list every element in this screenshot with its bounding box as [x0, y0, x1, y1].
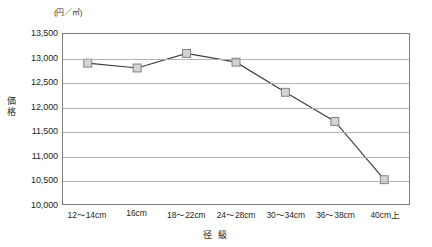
data-point-marker — [281, 88, 289, 96]
gridline — [63, 108, 409, 109]
y-tick-label: 11,500 — [6, 126, 58, 136]
x-axis-title: 径 級 — [0, 228, 432, 241]
x-tick-label: 30〜34cm — [266, 208, 305, 220]
y-axis-tick-labels: 13,50013,00012,50012,00011,50011,00010,5… — [0, 33, 58, 205]
gridline — [63, 181, 409, 182]
x-tick-label: 18〜22cm — [167, 208, 206, 220]
y-tick-label: 13,500 — [6, 28, 58, 38]
series-line — [88, 53, 385, 179]
y-tick-label: 13,000 — [6, 53, 58, 63]
x-tick-label: 16cm — [126, 208, 146, 218]
gridline — [63, 157, 409, 158]
line-chart: (円／㎥) 価格 13,50013,00012,50012,00011,5001… — [0, 0, 432, 247]
y-tick-label: 10,000 — [6, 200, 58, 210]
x-axis-tick-labels: 12〜14cm16cm18〜22cm24〜28cm30〜34cm36〜38cm4… — [62, 208, 410, 222]
y-tick-label: 10,500 — [6, 175, 58, 185]
y-tick-label: 12,500 — [6, 77, 58, 87]
data-point-marker — [380, 176, 388, 184]
gridline — [63, 132, 409, 133]
y-axis-unit-label: (円／㎥) — [54, 6, 82, 17]
x-tick-label: 12〜14cm — [68, 208, 107, 220]
x-tick-label: 24〜28cm — [217, 208, 256, 220]
y-tick-label: 12,000 — [6, 102, 58, 112]
x-tick-label: 36〜38cm — [316, 208, 355, 220]
x-tick-label: 40cm上 — [370, 208, 399, 220]
gridline — [63, 83, 409, 84]
data-point-marker — [183, 49, 191, 57]
data-point-marker — [133, 64, 141, 72]
data-point-marker — [331, 117, 339, 125]
y-tick-label: 11,000 — [6, 151, 58, 161]
plot-area — [62, 33, 410, 205]
gridline — [63, 59, 409, 60]
data-point-marker — [84, 59, 92, 67]
